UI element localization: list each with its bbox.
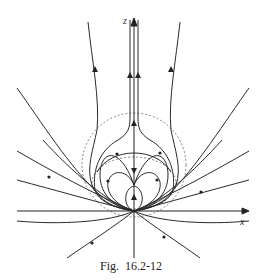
field-line-lower-right [134,211,200,258]
z-axis-arrow-icon [131,18,137,26]
z-axis-label: z [122,15,127,26]
x-axis-arrow-icon [242,208,249,214]
field-line-tall-right [134,22,180,211]
arrow-icon [135,72,141,78]
arrow-icon [158,151,161,154]
field-line-low-left [17,211,134,223]
arrow-icon [168,66,174,72]
figure-caption: Fig. 16.2-12 [0,259,262,274]
arrow-icon [155,178,158,181]
field-line-fan-left-2 [17,180,134,211]
arrow-icon [131,120,137,126]
field-line-low-right [134,211,249,223]
arrow-icon [92,66,98,72]
field-line-diag-upper-left [17,88,134,211]
field-line-diagram: z x [0,0,262,280]
field-lines [17,20,249,258]
arrow-icon [115,152,118,155]
arrow-icon [127,72,133,78]
arrow-icon [199,190,202,193]
arrow-icon [162,235,165,238]
arrow-icon [131,194,137,200]
arrow-icon [90,241,93,244]
field-line-lower-left [67,211,134,258]
field-line-fan-left-3 [43,140,134,211]
field-line-diag-upper-right [134,88,249,211]
origin-point [133,210,136,213]
arrow-icon [47,175,50,178]
field-line-tall-left [88,22,134,211]
arrow-icon [131,168,137,174]
arrow-icon [106,179,109,182]
field-line-fan-right-2 [134,180,249,211]
